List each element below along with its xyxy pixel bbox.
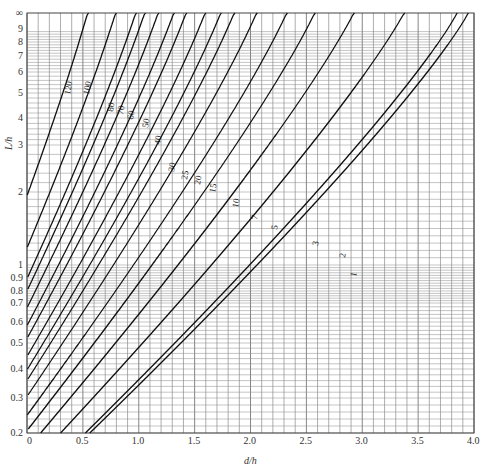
- x-tick-label: 3.0: [355, 435, 368, 446]
- x-axis-ticks: 00.51.01.52.02.53.03.54.0: [27, 435, 480, 446]
- y-tick-label: ∞: [16, 7, 23, 18]
- curve-label: 1: [348, 271, 359, 277]
- y-axis-ticks: 0.20.30.40.50.60.70.80.9123456789∞: [11, 7, 24, 438]
- curve-label: 3: [310, 240, 321, 247]
- curve-label: 5: [269, 224, 280, 231]
- y-tick-label: 0.5: [11, 337, 24, 348]
- chart: 1201008070605040302520151075321 00.51.01…: [0, 0, 486, 474]
- curve-label: 2: [337, 252, 348, 258]
- y-tick-label: 0.3: [11, 392, 24, 403]
- y-tick-label: 0.7: [11, 297, 24, 308]
- x-tick-label: 2.0: [244, 435, 257, 446]
- curve-25: [28, 13, 222, 369]
- curve-30: [28, 13, 206, 355]
- x-tick-label: 1.0: [132, 435, 145, 446]
- curve-label: 20: [192, 174, 203, 185]
- x-tick-label: 0: [27, 435, 32, 446]
- x-tick-label: 2.5: [299, 435, 312, 446]
- y-tick-label: 0.8: [11, 285, 24, 296]
- curve-label: 25: [179, 169, 190, 180]
- x-tick-label: 4.0: [467, 435, 480, 446]
- y-tick-label: 3: [18, 139, 23, 150]
- y-tick-label: 0.6: [11, 316, 24, 327]
- y-tick-label: 9: [18, 23, 23, 34]
- x-axis-label: d/h: [244, 455, 257, 466]
- y-tick-label: 1: [18, 259, 23, 270]
- curve-120: [27, 13, 88, 195]
- curve-15: [28, 13, 257, 395]
- y-tick-label: 0.9: [11, 272, 24, 283]
- y-tick-label: 5: [18, 87, 23, 98]
- x-tick-label: 0.5: [76, 435, 89, 446]
- y-tick-label: 6: [18, 66, 23, 77]
- y-tick-label: 0.4: [11, 363, 24, 374]
- y-tick-label: 2: [18, 186, 23, 197]
- y-tick-label: 0.2: [11, 427, 24, 438]
- y-axis-label: L/h: [3, 137, 14, 151]
- y-tick-label: 4: [18, 112, 23, 123]
- y-tick-label: 8: [18, 36, 23, 47]
- curve-label: 10: [230, 197, 241, 208]
- x-tick-label: 3.5: [411, 435, 424, 446]
- x-tick-label: 1.5: [188, 435, 201, 446]
- y-tick-label: 7: [18, 50, 23, 61]
